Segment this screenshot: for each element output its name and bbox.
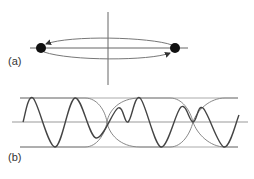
panel-b — [12, 98, 248, 148]
orbit-lower-arc-with-arrow — [44, 52, 170, 59]
panel-b-label: (b) — [8, 151, 21, 163]
mass-right — [170, 43, 180, 53]
mass-left — [36, 43, 46, 53]
physics-figure: (a) (b) — [0, 0, 254, 179]
orbit-upper-arc-with-arrow — [46, 38, 172, 45]
figure-canvas — [0, 0, 254, 179]
panel-a-label: (a) — [8, 55, 21, 67]
panel-a — [30, 12, 188, 85]
